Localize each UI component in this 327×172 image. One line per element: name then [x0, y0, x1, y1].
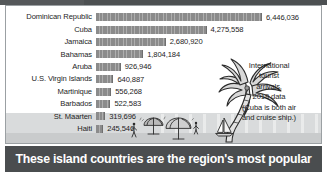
bar	[96, 125, 103, 133]
bar	[96, 112, 105, 120]
bar-track: 1,804,184	[96, 48, 322, 60]
annotation-line: and cruise ship.)	[223, 113, 315, 123]
infographic-bar-chart: Dominican Republic 6,446,036 Cuba 4,275,…	[0, 0, 327, 172]
bar-value: 245,546	[107, 124, 134, 133]
bar-label: Bahamas	[6, 51, 96, 59]
table-row: Haiti 245,546	[6, 123, 322, 135]
bar-track: 6,446,036	[96, 11, 322, 23]
bar	[96, 50, 143, 58]
bar-value: 2,680,920	[170, 37, 203, 46]
bar-label: Aruba	[6, 63, 96, 71]
chart-annotation: International tourist arrivals, 2019 dat…	[223, 61, 315, 123]
bar-value: 1,804,184	[147, 50, 180, 59]
bar-label: Dominican Republic	[6, 13, 96, 21]
table-row: Cuba 4,275,558	[6, 23, 322, 35]
annotation-line: 2019 data	[223, 92, 315, 102]
table-row: Jamaica 2,680,920	[6, 36, 322, 48]
bar	[96, 26, 207, 34]
annotation-line: tourist	[223, 71, 315, 81]
annotation-line: (Cuba is both air	[223, 103, 315, 113]
bar	[96, 100, 110, 108]
bar	[96, 63, 121, 71]
chart-title-banner: These island countries are the region's …	[5, 146, 322, 172]
bar-track: 2,680,920	[96, 36, 322, 48]
bar-value: 6,446,036	[266, 13, 299, 22]
bar-value: 319,696	[109, 112, 136, 121]
bar-value: 522,583	[114, 99, 141, 108]
annotation-line: arrivals,	[223, 82, 315, 92]
bar	[96, 75, 113, 83]
bar	[96, 38, 166, 46]
bar-value: 556,268	[115, 87, 142, 96]
bar	[96, 88, 111, 96]
bar-label: Haiti	[6, 125, 96, 133]
page-title: These island countries are the region's …	[15, 152, 311, 166]
chart-frame: Dominican Republic 6,446,036 Cuba 4,275,…	[5, 5, 322, 144]
bar-label: U.S. Virgin Islands	[6, 75, 96, 83]
bar-value: 926,946	[125, 62, 152, 71]
table-row: Dominican Republic 6,446,036	[6, 11, 322, 23]
bar-value: 4,275,558	[211, 25, 244, 34]
bar-track: 245,546	[96, 123, 322, 135]
bar-value: 640,887	[117, 75, 144, 84]
bar	[96, 13, 262, 21]
bar-track: 4,275,558	[96, 23, 322, 35]
annotation-line: International	[223, 61, 315, 71]
bar-label: Barbados	[6, 100, 96, 108]
bar-label: Cuba	[6, 26, 96, 34]
bar-label: Jamaica	[6, 38, 96, 46]
bar-label: St. Maarten	[6, 113, 96, 121]
table-row: Bahamas 1,804,184	[6, 48, 322, 60]
bar-label: Martinique	[6, 88, 96, 96]
